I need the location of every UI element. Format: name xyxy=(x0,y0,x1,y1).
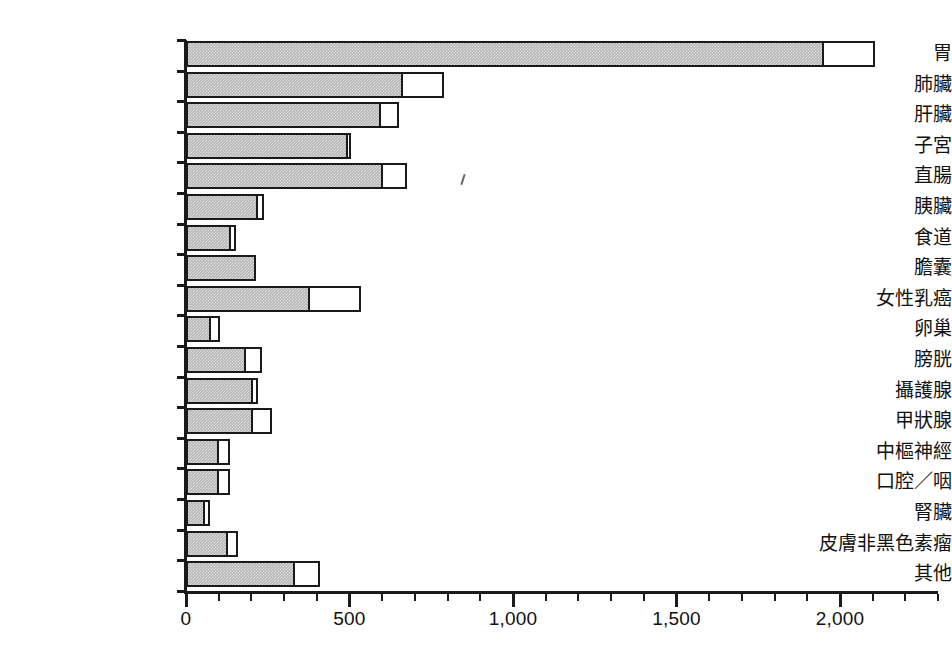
bar-segment-gray xyxy=(186,102,381,128)
x-axis-minor-tick xyxy=(381,594,383,601)
bar-row xyxy=(186,469,230,495)
bar-segment-white xyxy=(293,561,320,587)
bar-segment-white xyxy=(203,500,210,526)
x-axis-minor-tick xyxy=(904,594,906,601)
x-axis-minor-tick xyxy=(283,594,285,601)
bar-row xyxy=(186,72,444,98)
bar-chart: 胃肺臟肝臟子宮直腸胰臟食道膽囊女性乳癌卵巢膀胱攝護腺甲狀腺中樞神經口腔／咽腎臟皮… xyxy=(0,0,952,670)
x-axis-minor-tick xyxy=(414,594,416,601)
y-axis-tick xyxy=(177,223,186,226)
y-axis-tick xyxy=(177,498,186,501)
y-axis-tick xyxy=(177,192,186,195)
y-axis-tick xyxy=(177,345,186,348)
bar-segment-gray xyxy=(186,41,824,67)
bar-segment-white xyxy=(381,163,407,189)
bar-row xyxy=(186,316,220,342)
x-axis-minor-tick xyxy=(479,594,481,601)
plot-area xyxy=(186,41,938,593)
x-axis-tick-label: 1,500 xyxy=(652,608,701,630)
x-axis-tick-label: 1,000 xyxy=(489,608,538,630)
y-axis-tick xyxy=(177,590,186,593)
y-axis-tick xyxy=(177,529,186,532)
x-axis-minor-tick xyxy=(447,594,449,601)
x-axis-minor-tick xyxy=(741,594,743,601)
y-axis-tick xyxy=(177,406,186,409)
bar-segment-white xyxy=(256,194,264,220)
bar-segment-white xyxy=(401,72,444,98)
x-axis-minor-tick xyxy=(316,594,318,601)
bar-segment-gray xyxy=(186,347,246,373)
bar-segment-white xyxy=(251,408,272,434)
bar-row xyxy=(186,561,320,587)
x-axis-minor-tick xyxy=(250,594,252,601)
x-axis-tick-label: 2,000 xyxy=(816,608,865,630)
y-axis-tick xyxy=(177,559,186,562)
bar-row xyxy=(186,255,256,281)
bar-segment-white xyxy=(229,225,236,251)
y-axis-tick xyxy=(177,161,186,164)
y-axis-tick xyxy=(177,131,186,134)
bar-segment-white xyxy=(217,469,230,495)
bar-row xyxy=(186,531,238,557)
x-axis-major-tick xyxy=(348,594,351,607)
bar-segment-gray xyxy=(186,531,228,557)
x-axis-minor-tick xyxy=(708,594,710,601)
bar-segment-gray xyxy=(186,72,403,98)
bar-segment-gray xyxy=(186,194,258,220)
bar-row xyxy=(186,102,399,128)
y-axis-tick xyxy=(177,39,186,42)
x-axis-tick-label: 500 xyxy=(333,608,365,630)
x-axis-minor-tick xyxy=(610,594,612,601)
bar-row xyxy=(186,347,262,373)
x-axis-major-tick xyxy=(185,594,188,607)
bar-segment-gray xyxy=(186,225,231,251)
x-axis-minor-tick xyxy=(806,594,808,601)
x-axis-minor-tick xyxy=(577,594,579,601)
bar-row xyxy=(186,133,351,159)
bar-segment-white xyxy=(346,133,352,159)
bar-row xyxy=(186,163,407,189)
bar-row xyxy=(186,225,236,251)
y-axis-tick xyxy=(177,437,186,440)
y-axis-tick xyxy=(177,467,186,470)
x-axis-minor-tick xyxy=(643,594,645,601)
bar-segment-gray xyxy=(186,255,256,281)
bar-row xyxy=(186,378,258,404)
bar-segment-white xyxy=(244,347,262,373)
bar-segment-white xyxy=(226,531,238,557)
y-axis-tick xyxy=(177,314,186,317)
x-axis-minor-tick xyxy=(774,594,776,601)
bar-segment-white xyxy=(308,286,361,312)
x-axis-minor-tick xyxy=(872,594,874,601)
x-axis-minor-tick xyxy=(218,594,220,601)
x-axis-major-tick xyxy=(512,594,515,607)
bar-segment-white xyxy=(251,378,258,404)
bar-segment-gray xyxy=(186,316,211,342)
bar-segment-gray xyxy=(186,469,219,495)
x-axis-minor-tick xyxy=(937,594,939,601)
bar-segment-gray xyxy=(186,286,310,312)
x-axis-major-tick xyxy=(675,594,678,607)
bar-row xyxy=(186,194,264,220)
bar-row xyxy=(186,439,230,465)
y-axis-tick xyxy=(177,284,186,287)
y-axis-tick xyxy=(177,376,186,379)
bar-row xyxy=(186,408,272,434)
bar-row xyxy=(186,41,875,67)
bar-segment-gray xyxy=(186,408,253,434)
bar-segment-gray xyxy=(186,163,383,189)
y-axis-tick xyxy=(177,70,186,73)
x-axis-minor-tick xyxy=(545,594,547,601)
bar-segment-gray xyxy=(186,439,219,465)
y-axis-tick xyxy=(177,100,186,103)
bar-row xyxy=(186,500,210,526)
bar-segment-gray xyxy=(186,378,253,404)
bar-segment-gray xyxy=(186,561,295,587)
bar-segment-white xyxy=(379,102,399,128)
x-axis-tick-label: 0 xyxy=(181,608,192,630)
bar-segment-white xyxy=(209,316,220,342)
x-axis-major-tick xyxy=(839,594,842,607)
bar-segment-white xyxy=(217,439,230,465)
bar-segment-white xyxy=(822,41,875,67)
bar-segment-gray xyxy=(186,133,348,159)
